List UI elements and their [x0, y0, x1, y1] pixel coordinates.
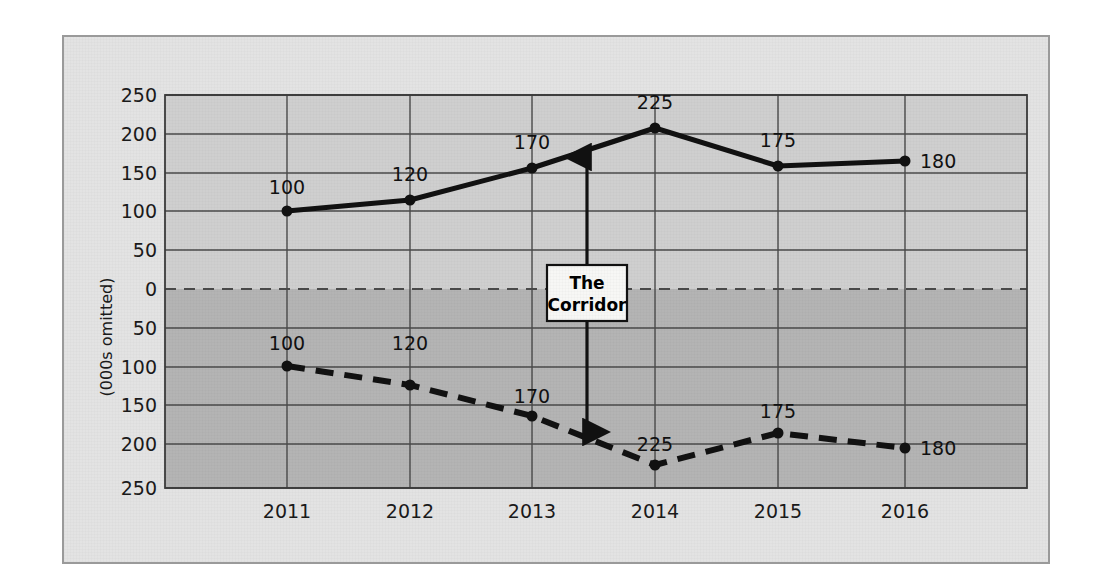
category-label-2011: 2011: [263, 500, 311, 522]
data-point: [650, 123, 661, 134]
category-label-2014: 2014: [631, 500, 679, 522]
data-point: [900, 156, 911, 167]
point-label: 225: [637, 433, 673, 455]
y-tick-label: 250: [121, 84, 157, 106]
point-label: 175: [760, 129, 796, 151]
point-label: 180: [920, 437, 956, 459]
callout-line-1: The: [569, 273, 604, 293]
point-label: 120: [392, 332, 428, 354]
y-axis-tick-labels: 250 200 150 100 50 0 50 100 150 200 250: [121, 84, 157, 499]
point-label: 175: [760, 400, 796, 422]
data-point: [650, 460, 661, 471]
y-tick-label: 100: [121, 200, 157, 222]
point-label: 100: [269, 332, 305, 354]
y-tick-label: 250: [121, 477, 157, 499]
point-label: 180: [920, 150, 956, 172]
point-label: 170: [514, 385, 550, 407]
y-tick-label: 150: [121, 394, 157, 416]
corridor-callout-box: The Corridor: [547, 265, 627, 321]
data-point: [527, 411, 538, 422]
data-point: [900, 443, 911, 454]
point-label: 170: [514, 131, 550, 153]
figure-frame: 250 200 150 100 50 0 50 100 150 200 250 …: [62, 35, 1050, 564]
y-tick-label: 200: [121, 123, 157, 145]
data-point: [773, 161, 784, 172]
data-point: [527, 163, 538, 174]
y-axis-title: (000s omitted): [97, 278, 116, 397]
category-label-2012: 2012: [386, 500, 434, 522]
callout-line-2: Corridor: [548, 295, 628, 315]
data-point: [405, 195, 416, 206]
y-tick-label: 0: [145, 278, 157, 300]
data-point: [405, 380, 416, 391]
point-label: 120: [392, 163, 428, 185]
point-label: 100: [269, 176, 305, 198]
data-point: [773, 428, 784, 439]
category-label-2015: 2015: [754, 500, 802, 522]
corridor-line-chart: 250 200 150 100 50 0 50 100 150 200 250 …: [64, 37, 1048, 562]
category-label-2016: 2016: [881, 500, 929, 522]
x-axis-category-labels: 2011 2012 2013 2014 2015 2016: [263, 500, 929, 522]
y-tick-label: 100: [121, 356, 157, 378]
y-tick-label: 50: [133, 317, 157, 339]
y-tick-label: 200: [121, 433, 157, 455]
data-point: [282, 361, 293, 372]
data-point: [282, 206, 293, 217]
point-label: 225: [637, 91, 673, 113]
category-label-2013: 2013: [508, 500, 556, 522]
y-tick-label: 150: [121, 162, 157, 184]
y-tick-label: 50: [133, 239, 157, 261]
